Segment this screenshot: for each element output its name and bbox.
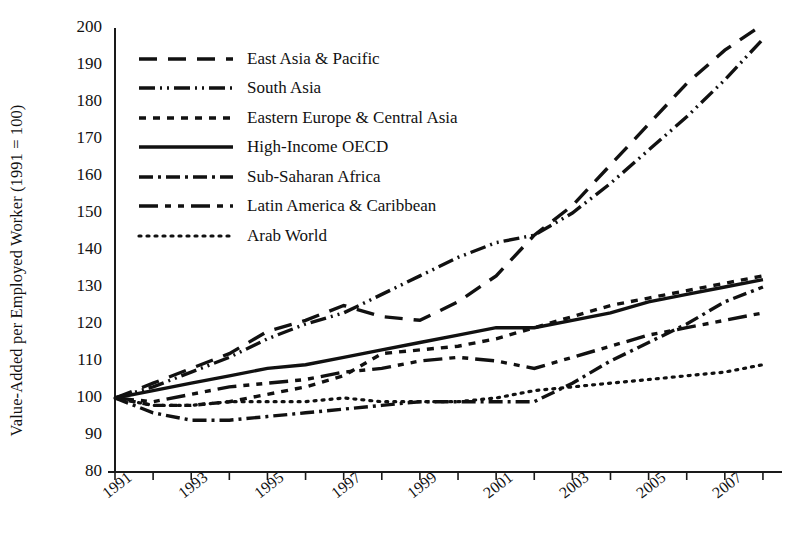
chart-figure: Value-Added per Employed Worker (1991 = …: [0, 0, 797, 541]
legend-item-label: South Asia: [235, 78, 321, 98]
series-line: [115, 287, 763, 420]
x-axis-ticks: [115, 472, 763, 480]
legend-line-swatch: [137, 81, 235, 95]
legend-item-label: Eastern Europe & Central Asia: [235, 108, 458, 128]
legend-item[interactable]: High-Income OECD: [137, 133, 458, 163]
legend-item-label: High-Income OECD: [235, 137, 388, 157]
series-line: [115, 280, 763, 398]
legend-item-label: Sub-Saharan Africa: [235, 167, 381, 187]
legend-item-label: East Asia & Pacific: [235, 49, 380, 69]
legend-line-swatch: [137, 199, 235, 213]
legend-line-swatch: [137, 52, 235, 66]
legend-line-swatch: [137, 170, 235, 184]
legend-item[interactable]: Arab World: [137, 221, 458, 251]
legend-item[interactable]: Sub-Saharan Africa: [137, 162, 458, 192]
chart-legend: East Asia & PacificSouth AsiaEastern Eur…: [137, 44, 458, 251]
legend-item[interactable]: Latin America & Caribbean: [137, 192, 458, 222]
legend-line-swatch: [137, 229, 235, 243]
legend-line-swatch: [137, 140, 235, 154]
series-line: [115, 276, 763, 406]
series-line: [115, 313, 763, 402]
legend-item[interactable]: Eastern Europe & Central Asia: [137, 103, 458, 133]
legend-item[interactable]: East Asia & Pacific: [137, 44, 458, 74]
series-line: [115, 365, 763, 406]
legend-item-label: Arab World: [235, 226, 327, 246]
legend-line-swatch: [137, 111, 235, 125]
legend-item-label: Latin America & Caribbean: [235, 196, 436, 216]
legend-item[interactable]: South Asia: [137, 74, 458, 104]
